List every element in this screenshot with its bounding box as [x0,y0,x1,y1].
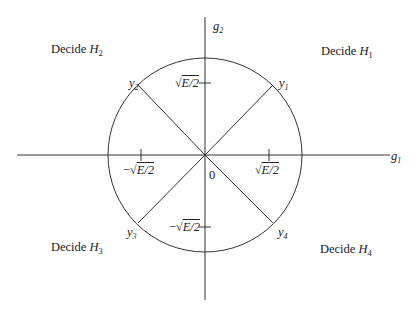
tick-label-neg-x: −√E/2 [123,164,154,177]
region-hyp: H [90,240,99,254]
prefix: − [169,220,176,234]
sqrt-icon: √ [175,76,182,90]
region-prefix: Decide [321,44,360,58]
signal-point-y2: y2 [129,77,139,92]
radicand: E/2 [262,163,279,177]
vector-y1 [205,85,273,155]
tick-label-pos-x: √E/2 [255,164,279,177]
g1-subscript: 1 [397,156,401,165]
region-hyp: H [90,42,99,56]
region-subscript: 3 [99,246,103,256]
point-subscript: 2 [135,83,139,92]
tick-label-pos-y: √E/2 [175,77,199,90]
signal-point-y3: y3 [127,226,137,241]
signal-point-y4: y4 [278,226,288,241]
sqrt-icon: √ [130,163,137,177]
region-subscript: 4 [368,248,372,258]
region-subscript: 2 [99,48,103,58]
radicand: E/2 [183,220,200,234]
region-hyp: H [359,242,368,256]
radicand: E/2 [137,163,154,177]
region-label-h2: Decide H2 [51,43,103,58]
radicand: E/2 [182,76,199,90]
g2-axis-label: g2 [213,20,223,35]
region-prefix: Decide [51,240,90,254]
region-label-h3: Decide H3 [51,241,103,256]
origin-label: 0 [209,169,215,182]
g2-subscript: 2 [219,26,223,35]
region-prefix: Decide [320,242,359,256]
region-prefix: Decide [51,42,90,56]
point-subscript: 4 [284,232,288,241]
region-label-h1: Decide H1 [321,45,373,60]
g1-axis-label: g1 [391,150,401,165]
point-subscript: 3 [133,232,137,241]
vector-y2 [138,85,205,155]
region-label-h4: Decide H4 [320,243,372,258]
prefix: − [123,163,130,177]
point-subscript: 1 [285,83,289,92]
tick-label-neg-y: −√E/2 [169,221,200,234]
region-subscript: 1 [369,50,373,60]
signal-point-y1: y1 [279,77,289,92]
region-hyp: H [360,44,369,58]
sqrt-icon: √ [255,163,262,177]
sqrt-icon: √ [176,220,183,234]
